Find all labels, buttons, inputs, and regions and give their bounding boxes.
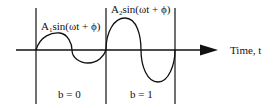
ask-waveform-diagram: A1sin(ωt + ϕ) A2sin(ωt + ϕ) b = 0 b = 1 … [0,0,275,108]
bit-label-1: b = 1 [130,88,153,100]
expr-label-bit0: A1sin(ωt + ϕ) [41,20,101,34]
waveform-bit0 [36,33,106,63]
bit-label-0: b = 0 [58,88,81,100]
time-axis-label: Time, t [230,44,261,56]
expr-label-bit1: A2sin(ωt + ϕ) [111,3,171,17]
axis-arrowhead-icon [200,45,218,56]
